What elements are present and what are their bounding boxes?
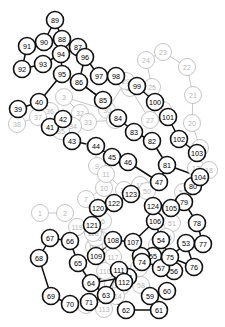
node-85[interactable]: 85 — [95, 92, 112, 109]
node-76[interactable]: 76 — [186, 259, 203, 276]
node-label: 119 — [71, 224, 82, 231]
node-label: 1 — [38, 210, 42, 217]
node-96[interactable]: 96 — [77, 49, 94, 66]
node-61[interactable]: 61 — [151, 302, 168, 319]
node-95[interactable]: 95 — [54, 66, 71, 83]
dim-node-3[interactable]: 3 — [56, 89, 73, 106]
node-64[interactable]: 64 — [83, 275, 100, 292]
node-label: 78 — [193, 219, 201, 228]
node-71[interactable]: 71 — [81, 294, 98, 311]
node-92[interactable]: 92 — [14, 61, 31, 78]
node-94[interactable]: 94 — [53, 46, 70, 63]
node-54[interactable]: 54 — [153, 232, 170, 249]
node-label: 63 — [102, 291, 110, 300]
node-83[interactable]: 83 — [126, 124, 143, 141]
dim-node-23[interactable]: 23 — [155, 44, 172, 61]
node-label: 22 — [183, 64, 191, 71]
dim-node-20[interactable]: 20 — [184, 115, 201, 132]
node-101[interactable]: 101 — [160, 109, 177, 126]
node-70[interactable]: 70 — [62, 296, 79, 313]
node-label: 59 — [146, 292, 154, 301]
node-53[interactable]: 53 — [178, 235, 195, 252]
node-97[interactable]: 97 — [91, 68, 108, 85]
node-84[interactable]: 84 — [110, 110, 127, 127]
node-label: 6 — [101, 218, 105, 225]
node-108[interactable]: 108 — [105, 232, 122, 249]
node-109[interactable]: 109 — [88, 248, 105, 265]
node-40[interactable]: 40 — [31, 94, 48, 111]
graph-canvas: 1234567891011121314151617181920212223242… — [0, 0, 225, 327]
dim-node-27[interactable]: 27 — [142, 112, 159, 129]
node-68[interactable]: 68 — [31, 250, 48, 267]
node-78[interactable]: 78 — [189, 215, 206, 232]
node-100[interactable]: 100 — [147, 94, 164, 111]
node-104[interactable]: 104 — [192, 169, 209, 186]
node-label: 65 — [74, 259, 82, 268]
node-75[interactable]: 75 — [162, 249, 179, 266]
node-98[interactable]: 98 — [108, 68, 125, 85]
dim-node-11[interactable]: 11 — [98, 166, 115, 183]
node-label: 38 — [13, 121, 21, 128]
node-46[interactable]: 46 — [120, 154, 137, 171]
node-label: 113 — [98, 306, 109, 313]
node-label: 2 — [63, 210, 67, 217]
node-47[interactable]: 47 — [151, 174, 168, 191]
node-label: 77 — [199, 240, 207, 249]
node-label: 57 — [157, 264, 165, 273]
node-label: 81 — [163, 161, 171, 170]
node-102[interactable]: 102 — [171, 131, 188, 148]
node-112[interactable]: 112 — [116, 274, 133, 291]
node-43[interactable]: 43 — [64, 133, 81, 150]
node-label: 74 — [138, 258, 146, 267]
node-label: 86 — [75, 78, 83, 87]
dim-node-24[interactable]: 24 — [138, 52, 155, 69]
node-label: 94 — [57, 50, 65, 59]
node-63[interactable]: 63 — [98, 287, 115, 304]
node-81[interactable]: 81 — [159, 157, 176, 174]
node-105[interactable]: 105 — [163, 200, 180, 217]
node-69[interactable]: 69 — [43, 288, 60, 305]
node-66[interactable]: 66 — [62, 233, 79, 250]
node-label: 68 — [35, 254, 43, 263]
node-label: 97 — [95, 72, 103, 81]
node-77[interactable]: 77 — [195, 236, 212, 253]
node-39[interactable]: 39 — [10, 101, 27, 118]
node-91[interactable]: 91 — [19, 38, 36, 55]
dim-node-2[interactable]: 2 — [57, 205, 74, 222]
node-label: 103 — [191, 149, 203, 158]
node-99[interactable]: 99 — [129, 78, 146, 95]
node-62[interactable]: 62 — [118, 302, 135, 319]
node-86[interactable]: 86 — [71, 74, 88, 91]
node-label: 122 — [108, 199, 120, 208]
node-120[interactable]: 120 — [90, 200, 107, 217]
main-node-layer: 3940414243444546475354555657596061626364… — [10, 12, 212, 319]
node-82[interactable]: 82 — [144, 133, 161, 150]
node-60[interactable]: 60 — [159, 283, 176, 300]
node-label: 9 — [95, 163, 99, 170]
node-89[interactable]: 89 — [47, 12, 64, 29]
node-label: 41 — [46, 123, 54, 132]
node-label: 99 — [133, 82, 141, 91]
node-123[interactable]: 123 — [123, 186, 140, 203]
node-65[interactable]: 65 — [70, 255, 87, 272]
node-122[interactable]: 122 — [106, 195, 123, 212]
dim-node-21[interactable]: 21 — [185, 87, 202, 104]
node-124[interactable]: 124 — [145, 198, 162, 215]
node-label: 23 — [159, 49, 167, 56]
node-label: 33 — [84, 119, 92, 126]
dim-node-22[interactable]: 22 — [179, 59, 196, 76]
dim-node-1[interactable]: 1 — [32, 205, 49, 222]
node-67[interactable]: 67 — [42, 230, 59, 247]
node-74[interactable]: 74 — [134, 254, 151, 271]
node-45[interactable]: 45 — [104, 149, 121, 166]
node-42[interactable]: 42 — [55, 111, 72, 128]
dim-node-33[interactable]: 33 — [80, 114, 97, 131]
node-107[interactable]: 107 — [125, 234, 142, 251]
node-121[interactable]: 121 — [84, 217, 101, 234]
node-44[interactable]: 44 — [88, 138, 105, 155]
node-103[interactable]: 103 — [189, 145, 206, 162]
node-label: 44 — [92, 142, 100, 151]
node-93[interactable]: 93 — [35, 56, 52, 73]
node-label: 109 — [90, 252, 102, 261]
node-90[interactable]: 90 — [36, 34, 53, 51]
